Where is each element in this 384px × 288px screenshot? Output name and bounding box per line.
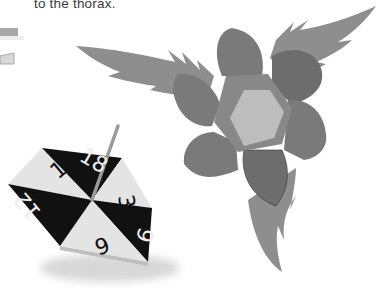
petal-left <box>173 74 220 126</box>
paper-craft-scene: 15 18 3 9 6 12 <box>0 0 384 288</box>
spinning-top: 15 18 3 9 6 12 <box>8 126 180 282</box>
petal-bottom <box>243 150 287 206</box>
edge-fragment <box>0 28 24 64</box>
petal-top <box>217 28 263 76</box>
